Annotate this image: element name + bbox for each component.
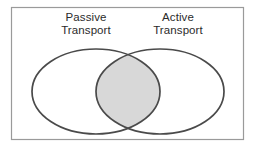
passive-transport-label-line1: Passive xyxy=(36,11,136,24)
passive-transport-label-line2: Transport xyxy=(36,24,136,37)
active-transport-label: Active Transport xyxy=(128,11,228,37)
venn-diagram-figure: Passive Transport Active Transport xyxy=(0,0,255,147)
passive-transport-label: Passive Transport xyxy=(36,11,136,37)
active-transport-label-line1: Active xyxy=(128,11,228,24)
active-transport-label-line2: Transport xyxy=(128,24,228,37)
